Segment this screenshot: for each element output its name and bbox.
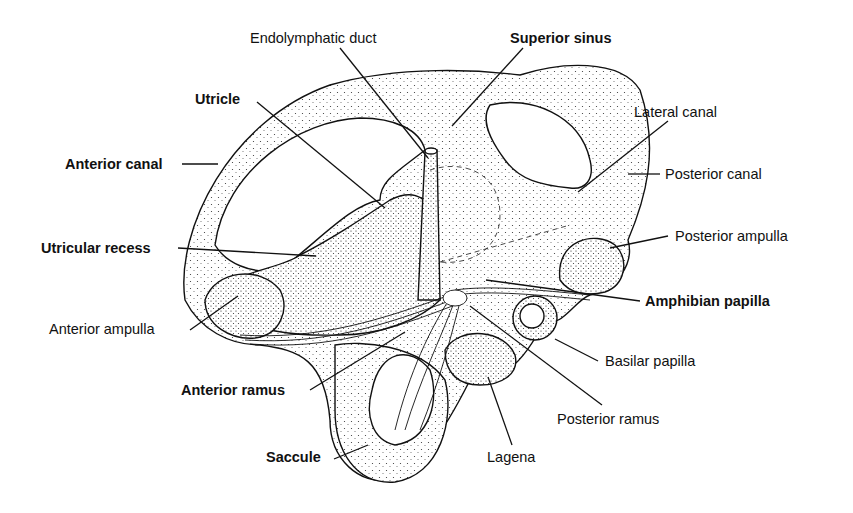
- label-posterior-ramus: Posterior ramus: [557, 412, 659, 427]
- label-lagena: Lagena: [487, 450, 535, 465]
- label-amphibian-papilla: Amphibian papilla: [645, 294, 770, 309]
- label-endolymphatic-duct: Endolymphatic duct: [250, 31, 377, 46]
- label-anterior-ampulla: Anterior ampulla: [49, 322, 155, 337]
- label-utricular-recess: Utricular recess: [41, 241, 151, 256]
- label-lateral-canal: Lateral canal: [634, 105, 717, 120]
- label-posterior-canal: Posterior canal: [665, 167, 762, 182]
- label-basilar-papilla: Basilar papilla: [605, 354, 695, 369]
- label-anterior-canal: Anterior canal: [65, 157, 163, 172]
- label-posterior-ampulla: Posterior ampulla: [675, 229, 788, 244]
- label-saccule: Saccule: [266, 450, 321, 465]
- label-utricle: Utricle: [195, 92, 240, 107]
- inner-ear-diagram: Endolymphatic duct Superior sinus Utricl…: [0, 0, 853, 513]
- label-superior-sinus: Superior sinus: [510, 31, 612, 46]
- labyrinth-drawing: [0, 0, 853, 513]
- label-anterior-ramus: Anterior ramus: [181, 383, 285, 398]
